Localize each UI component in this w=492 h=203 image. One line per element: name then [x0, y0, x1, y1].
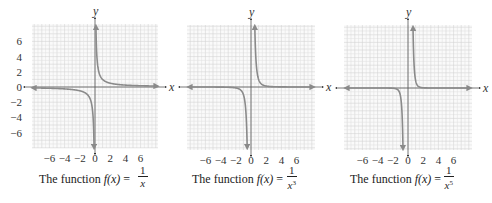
caption-1: The function f(x) =	[39, 172, 130, 187]
x-tick-label: 2	[420, 154, 426, 166]
x-tick-label: −6	[357, 154, 369, 166]
x-tick-label: −4	[372, 154, 384, 166]
x-tick-label: −4	[215, 154, 227, 166]
y-tick-label: 4	[17, 51, 23, 63]
x-tick-label: 2	[263, 154, 269, 166]
y-tick-label: 2	[17, 66, 23, 78]
x-tick-label: −6	[44, 152, 56, 164]
y-tick-label: −4	[10, 111, 22, 123]
y-tick-label: 6	[17, 35, 23, 47]
x-tick-label: −4	[59, 152, 71, 164]
x-axis-label: x	[482, 81, 489, 95]
y-axis-label: y	[405, 5, 412, 19]
x-tick-label: −2	[74, 152, 86, 164]
fraction-2: 1 x3	[287, 164, 297, 192]
x-tick-label: −2	[230, 154, 242, 166]
y-axis-label: y	[248, 5, 255, 19]
y-axis-label: y	[92, 4, 99, 18]
x-tick-label: 2	[107, 152, 113, 164]
graph-panel-3: yx−6−4−20246 The function f(x) = 1 x5	[313, 0, 492, 203]
x-tick-label: 4	[279, 154, 285, 166]
x-tick-label: −6	[200, 154, 212, 166]
x-tick-label: 0	[92, 152, 98, 164]
x-tick-label: 0	[248, 154, 254, 166]
caption-2: The function f(x) =	[192, 172, 283, 187]
x-tick-label: 0	[405, 154, 411, 166]
fraction-1: 1 x	[138, 164, 148, 190]
y-tick-label: 0	[17, 81, 23, 93]
x-tick-label: 6	[138, 152, 144, 164]
fraction-3: 1 x5	[444, 164, 454, 192]
graph-panel-2: yx−6−4−20246 The function f(x) = 1 x3	[156, 0, 326, 203]
y-tick-label: −2	[10, 96, 22, 108]
caption-3: The function f(x) =	[350, 172, 441, 187]
graph-panel-1: yx−6−4−202466420−2−4−6 The function f(x)…	[0, 0, 170, 203]
x-tick-label: −2	[387, 154, 399, 166]
x-tick-label: 4	[123, 152, 129, 164]
x-tick-label: 4	[436, 154, 442, 166]
y-tick-label: −6	[10, 127, 22, 139]
